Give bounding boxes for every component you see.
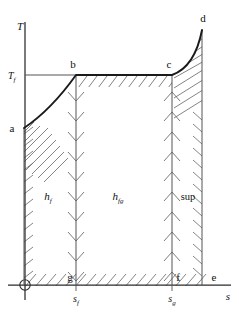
point-label-e: e [212,271,217,283]
x-axis-label: s [226,290,230,302]
x-tick-label-sf: sf [73,293,80,307]
hatch-liquid-region [22,122,68,182]
region-label-sup: sup [181,191,196,202]
saturated-liquid-curve-ab [24,75,76,128]
point-label-d: d [200,12,206,24]
point-label-a: a [10,122,15,134]
ts-diagram-figure: a b c d e f g T s Tf sf sg hf hfg sup [0,0,239,317]
point-label-g: g [67,271,73,283]
region-label-hf: hf [44,190,53,205]
point-label-b: b [70,58,76,70]
superheat-curve-cd [172,30,202,75]
y-axis-label: T [17,20,24,32]
ts-diagram-canvas: a b c d e f g T s Tf sf sg hf hfg sup [0,0,239,317]
point-label-f: f [176,271,180,283]
hatch-saturation-band [78,76,177,88]
region-label-hfg: hfg [113,190,124,205]
x-tick-label-sg: sg [168,293,176,307]
y-tick-label-tf: Tf [8,70,17,84]
hatch-superheat-wedge [174,36,206,118]
point-label-c: c [167,58,172,70]
